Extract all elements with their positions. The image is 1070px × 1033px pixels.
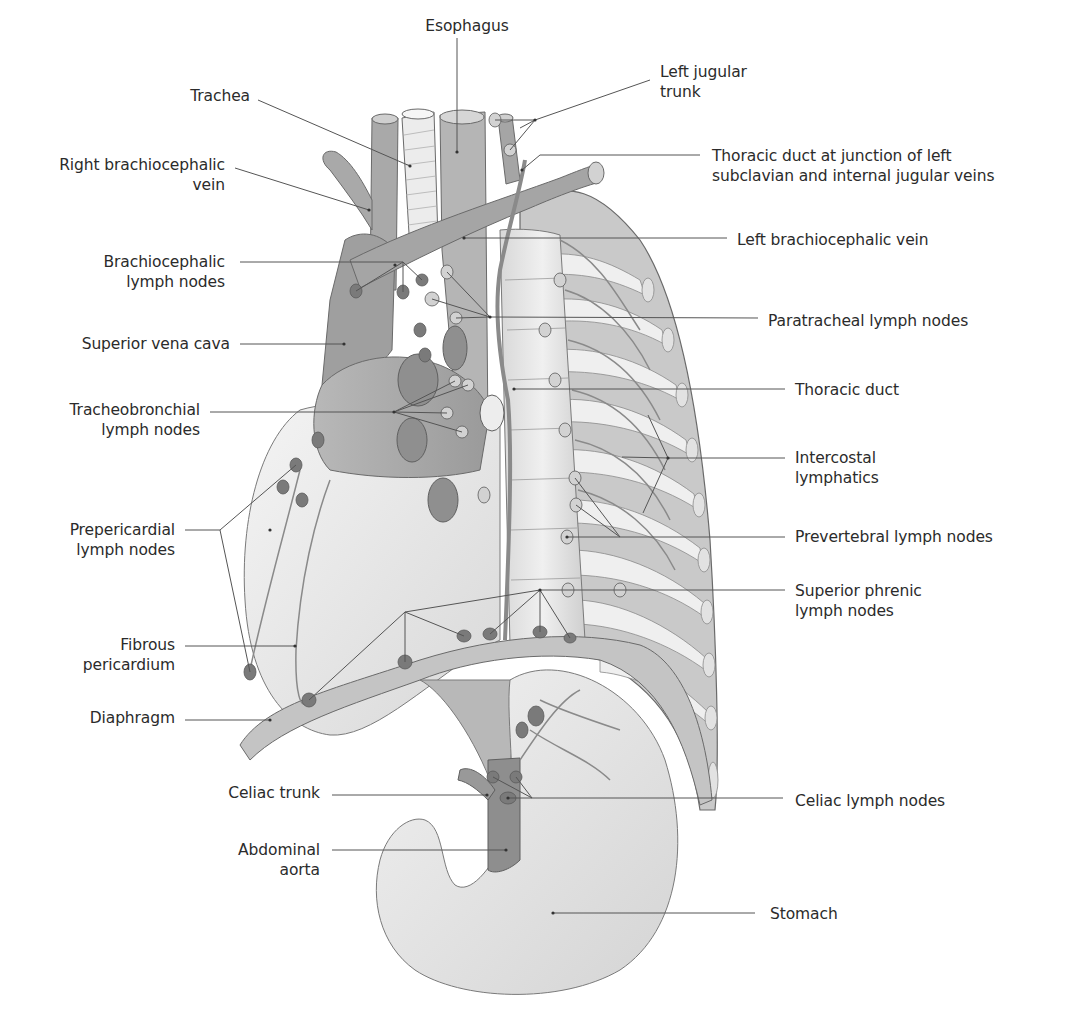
label-thoracic-duct: Thoracic duct [795,380,995,400]
label-right-brachiocephalic-vein: Right brachiocephalic vein [20,155,225,195]
label-left-jugular-trunk: Left jugular trunk [660,62,780,102]
leader-anchor-dot [392,410,395,413]
label-superior-phrenic-lymph-nodes: Superior phrenic lymph nodes [795,581,995,621]
label-prepericardial-lymph-nodes: Prepericardial lymph nodes [40,520,175,560]
label-esophagus: Esophagus [412,16,522,36]
label-thoracic-duct-junction: Thoracic duct at junction of left subcla… [712,146,1070,186]
stomach-shape [376,670,677,994]
label-intercostal-lymphatics: Intercostal lymphatics [795,448,955,488]
leader-anchor-dot [342,342,345,345]
leader-anchor-dot [504,848,507,851]
label-brachiocephalic-lymph-nodes: Brachiocephalic lymph nodes [60,252,225,292]
leader-anchor-dot [268,528,271,531]
leader-anchor-dot [367,208,370,211]
leader-anchor-dot [520,168,523,171]
leader-line [522,155,700,170]
leader-anchor-dot [485,793,488,796]
leader-anchor-dot [268,718,271,721]
leader-anchor-dot [538,588,541,591]
leader-anchor-dot [293,644,296,647]
leader-anchor-dot [666,456,669,459]
leader-anchor-dot [455,150,458,153]
label-left-brachiocephalic-vein: Left brachiocephalic vein [737,230,997,250]
label-fibrous-pericardium: Fibrous pericardium [40,635,175,675]
label-prevertebral-lymph-nodes: Prevertebral lymph nodes [795,527,1055,547]
label-abdominal-aorta: Abdominal aorta [150,840,320,880]
label-paratracheal-lymph-nodes: Paratracheal lymph nodes [768,311,1028,331]
leader-anchor-dot [551,911,554,914]
leader-line [535,80,650,120]
leader-line [520,120,535,128]
leader-anchor-dot [408,164,411,167]
leader-anchor-dot [533,118,536,121]
leader-anchor-dot [393,263,396,266]
leader-anchor-dot [506,796,509,799]
label-diaphragm: Diaphragm [40,708,175,728]
label-celiac-lymph-nodes: Celiac lymph nodes [795,791,1015,811]
leader-anchor-dot [462,236,465,239]
leader-anchor-dot [565,535,568,538]
label-superior-vena-cava: Superior vena cava [40,334,230,354]
label-trachea: Trachea [150,86,250,106]
label-celiac-trunk: Celiac trunk [150,783,320,803]
anatomical-figure: Esophagus Left jugular trunk Trachea Tho… [0,0,1070,1033]
leader-anchor-dot [488,315,491,318]
label-stomach: Stomach [770,904,890,924]
label-tracheobronchial-lymph-nodes: Tracheobronchial lymph nodes [40,400,200,440]
leader-anchor-dot [512,387,515,390]
leader-line [403,262,422,280]
